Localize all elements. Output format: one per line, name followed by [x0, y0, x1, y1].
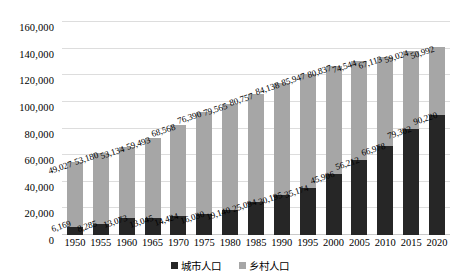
- bar-group[interactable]: [274, 22, 290, 235]
- x-axis-tick-label: 2020: [427, 237, 448, 248]
- bar-segment-rural[interactable]: [248, 94, 264, 202]
- bar-segment-rural[interactable]: [300, 74, 316, 188]
- x-axis-tick-label: 1950: [64, 237, 85, 248]
- x-axis-tick-label: 1985: [246, 237, 267, 248]
- bar-segment-rural[interactable]: [429, 47, 445, 115]
- legend-label: 城市人口: [181, 258, 221, 273]
- legend-swatch-icon: [239, 262, 246, 269]
- bar-segment-urban[interactable]: [351, 160, 367, 235]
- legend-label: 乡村人口: [249, 258, 289, 273]
- bar-group[interactable]: [119, 22, 135, 235]
- x-axis-tick-label: 2010: [375, 237, 396, 248]
- bar-segment-rural[interactable]: [145, 138, 161, 217]
- bar-segment-rural[interactable]: [67, 162, 83, 227]
- bar-segment-rural[interactable]: [326, 66, 342, 174]
- x-axis-tick-label: 2015: [401, 237, 422, 248]
- x-axis-tick-label: 2000: [323, 237, 344, 248]
- bar-segment-urban[interactable]: [300, 188, 316, 235]
- bar-segment-rural[interactable]: [274, 83, 290, 195]
- x-axis-tick-label: 1970: [168, 237, 189, 248]
- legend-item[interactable]: 城市人口: [171, 258, 221, 273]
- bar-group[interactable]: [351, 22, 367, 235]
- bar-segment-rural[interactable]: [93, 153, 109, 224]
- x-axis-tick-label: 1980: [220, 237, 241, 248]
- y-axis: 020,00040,00060,00080,000100,000120,0001…: [0, 22, 58, 235]
- bar-segment-urban[interactable]: [403, 129, 419, 235]
- bars-layer: 49,0276,16953,1808,28553,13413,07359,493…: [62, 22, 450, 235]
- bar-group[interactable]: [67, 22, 83, 235]
- legend-item[interactable]: 乡村人口: [239, 258, 289, 273]
- bar-group[interactable]: [326, 22, 342, 235]
- bar-segment-rural[interactable]: [351, 61, 367, 160]
- bar-segment-rural[interactable]: [222, 104, 238, 210]
- bar-group[interactable]: [93, 22, 109, 235]
- x-axis-tick-label: 1975: [194, 237, 215, 248]
- stacked-bar-chart: 020,00040,00060,00080,000100,000120,0001…: [0, 0, 459, 279]
- x-axis-tick-label: 1990: [271, 237, 292, 248]
- chart-legend: 城市人口乡村人口: [0, 258, 459, 273]
- x-axis-tick-label: 1995: [297, 237, 318, 248]
- x-axis-tick-label: 1955: [90, 237, 111, 248]
- bar-segment-rural[interactable]: [170, 125, 186, 216]
- bar-segment-rural[interactable]: [196, 112, 212, 214]
- x-axis-tick-label: 1960: [116, 237, 137, 248]
- x-axis-tick-label: 1965: [142, 237, 163, 248]
- plot-area: 49,0276,16953,1808,28553,13413,07359,493…: [62, 22, 450, 235]
- x-axis-tick-label: 2005: [349, 237, 370, 248]
- bar-segment-rural[interactable]: [119, 147, 135, 218]
- bar-segment-urban[interactable]: [429, 115, 445, 235]
- legend-swatch-icon: [171, 262, 178, 269]
- bar-group[interactable]: [196, 22, 212, 235]
- x-axis: 1950195519601965197019751980198519901995…: [62, 237, 450, 253]
- bar-group[interactable]: [300, 22, 316, 235]
- bar-segment-urban[interactable]: [377, 146, 393, 235]
- bar-segment-urban[interactable]: [326, 174, 342, 235]
